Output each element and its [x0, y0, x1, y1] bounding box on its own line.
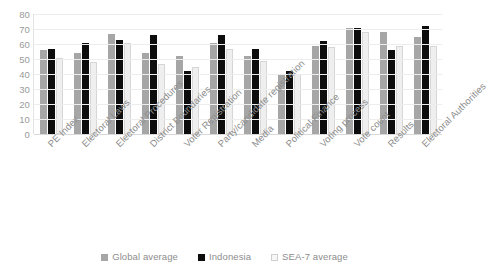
gridline [34, 104, 442, 105]
legend-label: Global average [112, 252, 178, 262]
bar [56, 58, 63, 135]
y-tick-label: 20 [8, 100, 30, 109]
gridline [34, 59, 442, 60]
legend-swatch-icon [101, 254, 108, 261]
y-tick-label: 40 [8, 70, 30, 79]
y-tick-label: 30 [8, 85, 30, 94]
y-tick-label: 0 [8, 130, 30, 139]
legend-item[interactable]: Global average [101, 252, 178, 262]
bar [252, 49, 259, 135]
y-tick-label: 50 [8, 55, 30, 64]
bar [40, 50, 47, 134]
legend-item[interactable]: Indonesia [198, 252, 251, 262]
chart-legend: Global averageIndonesiaSEA-7 average [0, 252, 449, 262]
y-tick-label: 80 [8, 10, 30, 19]
y-tick-label: 70 [8, 25, 30, 34]
bar [320, 41, 327, 134]
legend-item[interactable]: SEA-7 average [271, 252, 348, 262]
bar [422, 26, 429, 134]
legend-label: Indonesia [209, 252, 251, 262]
legend-swatch-icon [271, 254, 278, 261]
legend-swatch-icon [198, 254, 205, 261]
y-axis: 80706050403020100 [8, 14, 30, 134]
bar [388, 50, 395, 134]
gridline [34, 14, 442, 15]
y-tick-label: 10 [8, 115, 30, 124]
gridline [34, 44, 442, 45]
legend-label: SEA-7 average [282, 252, 348, 262]
gridline [34, 29, 442, 30]
bar [48, 49, 55, 135]
y-tick-label: 60 [8, 40, 30, 49]
gridline [34, 74, 442, 75]
x-axis-labels: PE IndexElectoral LawsElectoral Procedur… [33, 142, 441, 242]
